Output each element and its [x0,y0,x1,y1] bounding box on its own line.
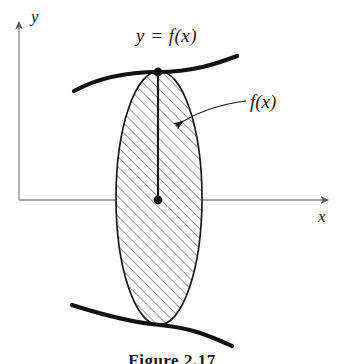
diagram-canvas [0,0,344,364]
figure-container: y = f(x) f(x) y x Figure 2.17 [0,0,344,364]
figure-caption: Figure 2.17 [0,351,344,364]
y-axis-label: y [31,8,39,25]
region-callout-label: f(x) [250,92,276,111]
point-on-curve [154,68,163,77]
point-on-axis [154,196,163,205]
x-axis-label: x [318,208,326,225]
curve-equation-label: y = f(x) [136,26,197,45]
